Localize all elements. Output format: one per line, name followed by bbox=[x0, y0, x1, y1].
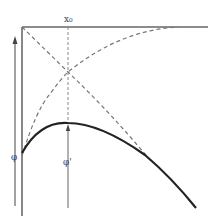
phi-solid-curve bbox=[22, 123, 196, 208]
arrowhead-up-icon bbox=[13, 36, 18, 44]
phi-prime-label: φ' bbox=[63, 157, 72, 167]
ascending-dashed-curve bbox=[22, 27, 178, 156]
x0-label: x₀ bbox=[64, 14, 73, 24]
descending-dashed-diagonal bbox=[22, 27, 150, 160]
phi-label: φ bbox=[11, 152, 17, 162]
diagram-canvas: x₀ φ φ' bbox=[0, 0, 218, 222]
arrowhead-up-icon bbox=[66, 124, 70, 131]
